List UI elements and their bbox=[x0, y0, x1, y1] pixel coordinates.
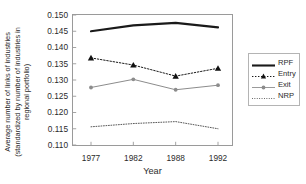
x-tick-label: 1982 bbox=[124, 154, 142, 162]
x-tick-label: 1992 bbox=[209, 154, 227, 162]
data-point-exit bbox=[216, 83, 220, 87]
legend-item-nrp: NRP bbox=[251, 90, 297, 101]
y-tick-label: 0.125 bbox=[34, 92, 68, 100]
legend-swatch-entry bbox=[251, 68, 276, 79]
legend-item-rpf: RPF bbox=[251, 57, 297, 68]
data-point-entry bbox=[88, 55, 94, 61]
x-tick-label: 1977 bbox=[82, 154, 100, 162]
y-axis-ticks: 0.1500.1450.1400.1350.1300.1250.1200.115… bbox=[34, 0, 68, 184]
legend-item-entry: Entry bbox=[251, 68, 297, 79]
series-line-rpf bbox=[91, 23, 218, 31]
y-axis-label-line-2: (standardized by number of industries in bbox=[12, 27, 22, 156]
legend-label-nrp: NRP bbox=[276, 90, 294, 101]
legend-label-entry: Entry bbox=[276, 68, 296, 79]
series-line-nrp bbox=[91, 122, 218, 129]
y-tick-label: 0.135 bbox=[34, 60, 68, 68]
y-tick-label: 0.140 bbox=[34, 43, 68, 51]
chart-legend: RPF Entry Exit NRP bbox=[248, 53, 300, 106]
legend-swatch-exit bbox=[251, 79, 276, 90]
y-tick-label: 0.115 bbox=[34, 125, 68, 133]
series-line-exit bbox=[91, 79, 218, 89]
legend-swatch-rpf bbox=[251, 57, 276, 68]
data-point-exit bbox=[131, 77, 135, 81]
y-axis-label-line-3: regional portfolio) bbox=[22, 27, 32, 156]
chart-figure: Average number of links of industries (s… bbox=[0, 0, 306, 184]
x-axis-ticks: 1977198219881992 bbox=[72, 152, 233, 166]
y-tick-label: 0.110 bbox=[34, 141, 68, 149]
x-axis-label: Year bbox=[72, 166, 233, 176]
data-point-exit bbox=[174, 88, 178, 92]
x-tick-label: 1988 bbox=[166, 154, 184, 162]
legend-swatch-nrp bbox=[251, 90, 276, 101]
data-point-exit bbox=[89, 86, 93, 90]
series-line-entry bbox=[91, 58, 218, 76]
legend-label-rpf: RPF bbox=[276, 57, 293, 68]
series-canvas bbox=[73, 15, 232, 145]
y-tick-label: 0.145 bbox=[34, 27, 68, 35]
plot-area bbox=[72, 14, 233, 146]
legend-label-exit: Exit bbox=[276, 79, 291, 90]
data-point-entry bbox=[215, 65, 221, 71]
legend-item-exit: Exit bbox=[251, 79, 297, 90]
y-axis-label: Average number of links of industries (s… bbox=[0, 0, 34, 184]
y-tick-label: 0.130 bbox=[34, 76, 68, 84]
data-point-entry bbox=[130, 62, 136, 68]
y-axis-label-line-1: Average number of links of industries bbox=[3, 27, 13, 156]
y-tick-label: 0.120 bbox=[34, 108, 68, 116]
y-tick-label: 0.150 bbox=[34, 11, 68, 19]
